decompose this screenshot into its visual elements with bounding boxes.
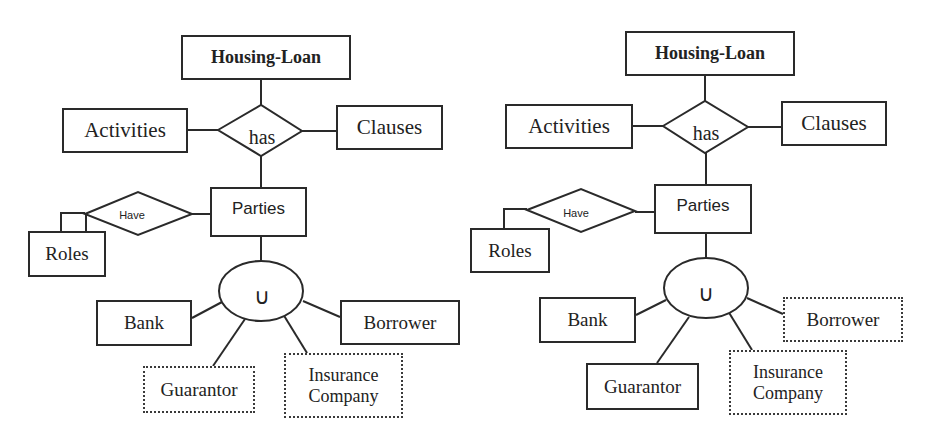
borrower-entity-left: Borrower <box>340 300 460 345</box>
activities-entity-right: Activities <box>505 104 633 149</box>
housing-loan-entity-left: Housing-Loan <box>181 35 351 80</box>
line-union-borrower-right <box>747 298 783 314</box>
bank-label: Bank <box>567 309 607 331</box>
insurance-label-line2: Company <box>309 386 379 407</box>
clauses-entity-right: Clauses <box>781 101 887 146</box>
guarantor-label: Guarantor <box>160 379 237 401</box>
bank-label: Bank <box>124 312 164 334</box>
activities-entity-left: Activities <box>62 108 188 153</box>
guarantor-label: Guarantor <box>604 376 681 398</box>
have-label-left: Have <box>119 209 145 221</box>
housing-loan-label: Housing-Loan <box>655 43 765 64</box>
parties-label: Parties <box>677 196 730 216</box>
line-union-bank-right <box>636 300 666 315</box>
has-label-right: has <box>693 122 720 145</box>
parties-label: Parties <box>232 199 285 219</box>
roles-label: Roles <box>45 243 88 265</box>
insurance-label-line2: Company <box>753 383 823 404</box>
housing-loan-label: Housing-Loan <box>211 47 321 68</box>
line-union-insurance-left <box>283 314 307 353</box>
insurance-company-entity-right: InsuranceCompany <box>729 350 847 415</box>
parties-entity-right: Parties <box>654 184 752 234</box>
union-icon-right: ∪ <box>698 281 714 306</box>
insurance-label-line1: Insurance <box>309 365 379 386</box>
bank-entity-right: Bank <box>539 297 636 343</box>
guarantor-entity-left: Guarantor <box>143 366 255 413</box>
clauses-entity-left: Clauses <box>336 105 443 150</box>
borrower-entity-right: Borrower <box>783 297 903 342</box>
line-roles-have-right <box>504 209 527 228</box>
activities-label: Activities <box>528 114 610 138</box>
clauses-label: Clauses <box>801 111 866 135</box>
guarantor-entity-right: Guarantor <box>586 363 699 410</box>
insurance-company-entity-left: InsuranceCompany <box>284 353 403 418</box>
line-union-guarantor-right <box>657 317 689 363</box>
bank-entity-left: Bank <box>96 300 192 346</box>
line-union-guarantor-left <box>213 319 245 366</box>
parties-entity-left: Parties <box>210 187 307 237</box>
union-icon-left: ∪ <box>254 284 270 309</box>
line-union-borrower-left <box>303 301 340 317</box>
line-roles-have-left-a <box>61 213 85 231</box>
activities-label: Activities <box>84 118 166 142</box>
roles-entity-right: Roles <box>470 228 550 273</box>
line-union-insurance-right <box>728 311 752 350</box>
borrower-label: Borrower <box>807 309 880 331</box>
roles-label: Roles <box>488 240 531 262</box>
housing-loan-entity-right: Housing-Loan <box>625 31 795 76</box>
line-union-bank-left <box>192 302 222 318</box>
clauses-label: Clauses <box>357 115 422 139</box>
insurance-label-line1: Insurance <box>753 362 823 383</box>
borrower-label: Borrower <box>364 312 437 334</box>
roles-entity-left: Roles <box>28 231 106 277</box>
have-label-right: Have <box>563 207 589 219</box>
has-label-left: has <box>249 126 276 149</box>
